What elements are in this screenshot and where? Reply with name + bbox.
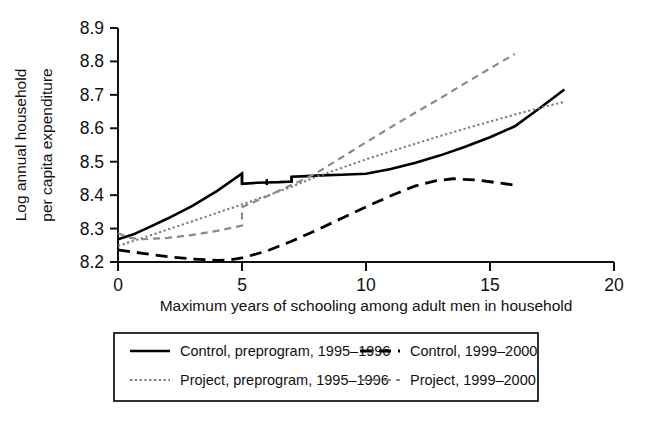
y-axis-tick-labels: 8.28.38.48.58.68.78.88.9	[80, 18, 105, 272]
x-tick-label: 0	[113, 275, 123, 295]
y-tick-label: 8.8	[80, 51, 104, 71]
x-tick-label: 5	[237, 275, 247, 295]
y-tick-label: 8.3	[80, 219, 104, 239]
chart-figure: 8.28.38.48.58.68.78.88.9 05101520 Log an…	[0, 0, 653, 421]
y-axis-ticks	[110, 28, 118, 262]
chart-canvas: 8.28.38.48.58.68.78.88.9 05101520 Log an…	[0, 0, 653, 421]
series-line-2	[118, 179, 515, 261]
legend-label-3: Project, preprogram, 1995–1996	[180, 372, 389, 388]
y-tick-label: 8.7	[80, 85, 104, 105]
legend-label-4: Project, 1999–2000	[410, 372, 536, 388]
y-tick-label: 8.6	[80, 118, 104, 138]
series-line-4	[118, 54, 515, 239]
y-tick-label: 8.5	[80, 152, 104, 172]
series-line-1	[118, 90, 564, 240]
x-tick-label: 20	[604, 275, 624, 295]
y-tick-label: 8.2	[80, 252, 104, 272]
y-tick-label: 8.9	[80, 18, 104, 38]
x-axis-ticks	[118, 262, 614, 271]
y-axis-title-line1: Log annual household	[12, 69, 29, 222]
x-axis-title: Maximum years of schooling among adult m…	[160, 297, 573, 314]
y-tick-label: 8.4	[80, 185, 105, 205]
y-axis-title-line2: per capita expenditure	[38, 68, 55, 221]
legend-label-2: Control, 1999–2000	[410, 343, 537, 359]
x-tick-label: 15	[480, 275, 499, 295]
chart-series-group	[118, 54, 564, 260]
x-tick-label: 10	[356, 275, 376, 295]
legend-label-1: Control, preprogram, 1995–1996	[180, 343, 390, 359]
x-axis-tick-labels: 05101520	[113, 275, 624, 295]
